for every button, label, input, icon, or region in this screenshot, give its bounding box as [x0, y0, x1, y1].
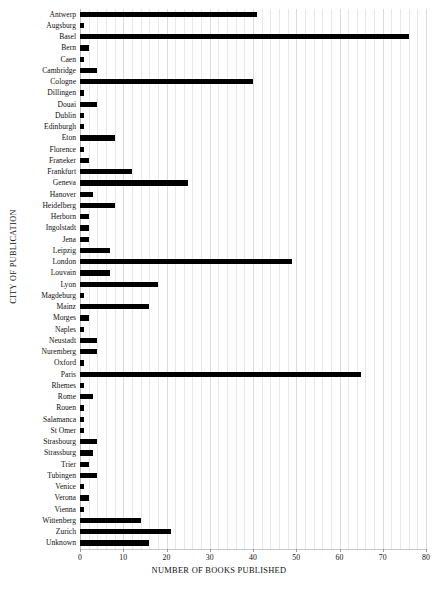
x-tick [253, 549, 254, 552]
bar-row: Salamanca [80, 414, 426, 425]
bar-row: Morges [80, 313, 426, 324]
bar [80, 405, 84, 410]
bar [80, 394, 93, 399]
category-label: Geneva [53, 177, 76, 188]
category-label: Dublin [55, 110, 76, 121]
category-label: Vienna [55, 504, 76, 515]
category-label: Morges [53, 312, 76, 323]
bar-row: Caen [80, 54, 426, 65]
bar [80, 225, 89, 230]
category-label: Edinburgh [44, 121, 76, 132]
bar [80, 79, 253, 84]
bar-row: Augsburg [80, 20, 426, 31]
bar-row: St Omer [80, 425, 426, 436]
bar-row: Hanover [80, 189, 426, 200]
category-label: Mainz [57, 301, 76, 312]
bar [80, 158, 89, 163]
bar-row: Magdeburg [80, 290, 426, 301]
bar [80, 473, 97, 478]
bar [80, 484, 84, 489]
category-label: Wittenberg [42, 515, 76, 526]
bar [80, 304, 149, 309]
bar-row: Herborn [80, 212, 426, 223]
x-tick-label: 20 [163, 553, 171, 562]
bar-row: Verona [80, 493, 426, 504]
x-tick-label: 60 [336, 553, 344, 562]
bar-row: Lyon [80, 279, 426, 290]
bar-row: Rome [80, 392, 426, 403]
category-label: Caen [60, 54, 76, 65]
category-label: Herborn [51, 211, 76, 222]
category-label: Nuremberg [42, 346, 76, 357]
gridline-major [426, 9, 427, 549]
bar [80, 518, 141, 523]
category-label: Zurich [56, 526, 76, 537]
bar-row: Basel [80, 32, 426, 43]
bar [80, 293, 84, 298]
bar-row: Venice [80, 482, 426, 493]
x-tick-label: 10 [119, 553, 127, 562]
category-label: Jena [63, 234, 77, 245]
bar [80, 383, 84, 388]
bar-row: Heidelberg [80, 200, 426, 211]
bar [80, 169, 132, 174]
bar [80, 180, 188, 185]
bar [80, 192, 93, 197]
category-label: Neustadt [49, 335, 76, 346]
category-label: Florence [49, 144, 76, 155]
bar-row: Bern [80, 43, 426, 54]
x-tick [426, 549, 427, 552]
bar-row: Zurich [80, 527, 426, 538]
bar-row: Trier [80, 459, 426, 470]
bar-row: Nuremberg [80, 347, 426, 358]
bar-row: Edinburgh [80, 122, 426, 133]
bar-row: Unknown [80, 538, 426, 549]
bar-row: Jena [80, 234, 426, 245]
bar [80, 57, 84, 62]
bar-row: Louvain [80, 268, 426, 279]
bar-row: Dillingen [80, 88, 426, 99]
category-label: Basel [59, 31, 76, 42]
bar [80, 68, 97, 73]
bar [80, 282, 158, 287]
bar-row: Rouen [80, 403, 426, 414]
bar-row: Leipzig [80, 245, 426, 256]
category-label: Franeker [49, 155, 76, 166]
x-tick-label: 30 [206, 553, 214, 562]
bar [80, 540, 149, 545]
bar-row: Vienna [80, 504, 426, 515]
x-tick-label: 50 [292, 553, 300, 562]
x-tick [383, 549, 384, 552]
bar [80, 507, 84, 512]
bar-row: Strasbourg [80, 437, 426, 448]
x-axis-title: NUMBER OF BOOKS PUBLISHED [0, 566, 438, 575]
bar [80, 34, 409, 39]
x-tick-label: 0 [78, 553, 82, 562]
bar [80, 428, 84, 433]
bar [80, 12, 257, 17]
category-label: Strasbourg [43, 436, 76, 447]
x-tick [123, 549, 124, 552]
plot-area: AntwerpAugsburgBaselBernCaenCambridgeCol… [80, 9, 426, 549]
category-label: Verona [54, 492, 76, 503]
category-label: Cologne [50, 76, 76, 87]
category-label: Trier [61, 459, 76, 470]
bar-row: Strassburg [80, 448, 426, 459]
bar [80, 439, 97, 444]
category-label: Augsburg [46, 20, 76, 31]
category-label: Strassburg [44, 447, 76, 458]
bar [80, 338, 97, 343]
bar-row: Rhemes [80, 380, 426, 391]
category-label: Antwerp [49, 9, 76, 20]
bar [80, 102, 97, 107]
category-label: Salamanca [43, 414, 76, 425]
x-tick [296, 549, 297, 552]
bar-row: Neustadt [80, 335, 426, 346]
bar [80, 462, 89, 467]
category-label: Rome [58, 391, 76, 402]
category-label: Magdeburg [41, 290, 76, 301]
category-label: Oxford [54, 357, 76, 368]
bar [80, 315, 89, 320]
bar [80, 248, 110, 253]
bar [80, 349, 97, 354]
